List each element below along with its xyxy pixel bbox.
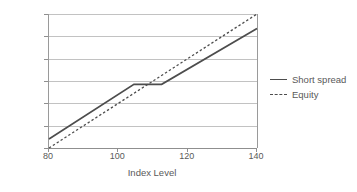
x-tick-label: 80 [43,152,53,161]
chart-legend: Short spread Equity [270,72,346,102]
plot-area [48,14,258,148]
x-tick-label: 140 [248,152,263,161]
x-axis-title: Index Level [48,168,256,178]
series-line [49,14,257,148]
legend-label-equity: Equity [292,90,318,100]
x-tick-mark [48,148,49,152]
legend-label-short-spread: Short spread [292,75,346,85]
gridline-y [49,148,257,149]
x-tick-label: 100 [110,152,125,161]
x-tick-mark [117,148,118,152]
legend-line-solid-icon [270,75,287,85]
x-tick-mark [256,148,257,152]
series-line [49,29,257,140]
legend-line-dashed-icon [270,90,287,100]
chart-container: 40%30%20%10%0%-10%-20% 80100120140 Index… [0,0,357,192]
x-tick-mark [187,148,188,152]
legend-item-short-spread[interactable]: Short spread [270,72,346,87]
series-lines [49,14,257,148]
x-tick-label: 120 [179,152,194,161]
legend-item-equity[interactable]: Equity [270,87,346,102]
